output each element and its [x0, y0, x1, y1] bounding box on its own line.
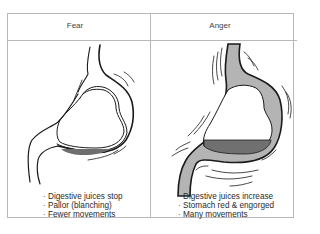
fear-digestive-juices [61, 149, 110, 155]
fear-effects-list: Digestive juices stop Pallor (blanching)… [43, 192, 123, 219]
fear-stomach-illustration [28, 45, 134, 184]
anger-effect-item: Stomach red & engorged [178, 201, 274, 210]
fear-effect-item: Pallor (blanching) [43, 201, 123, 210]
anger-effects-list: Digestive juices increase Stomach red & … [178, 192, 274, 219]
anger-effect-item: Many movements [178, 210, 274, 219]
fear-effect-item: Fewer movements [43, 210, 123, 219]
anger-stomach-illustration [172, 44, 291, 196]
anger-effect-item: Digestive juices increase [178, 192, 274, 201]
fear-effect-item: Digestive juices stop [43, 192, 123, 201]
